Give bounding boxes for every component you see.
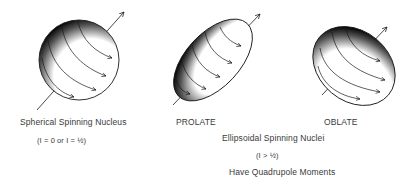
- ellipsoidal-condition: (I > ½): [256, 151, 279, 160]
- spherical-title: Spherical Spinning Nucleus: [20, 117, 127, 127]
- quadrupole-note: Have Quadrupole Moments: [229, 167, 335, 177]
- spherical-condition: (I = 0 or I = ½): [37, 136, 86, 145]
- prolate-nucleus-icon: [159, 5, 267, 115]
- oblate-nucleus-icon: [297, 10, 410, 121]
- prolate-title: PROLATE: [176, 117, 216, 127]
- ellipsoidal-title: Ellipsoidal Spinning Nuclei: [222, 133, 324, 143]
- oblate-title: OBLATE: [324, 117, 358, 127]
- spherical-nucleus-icon: [37, 12, 124, 110]
- nuclei-diagram: [0, 0, 410, 186]
